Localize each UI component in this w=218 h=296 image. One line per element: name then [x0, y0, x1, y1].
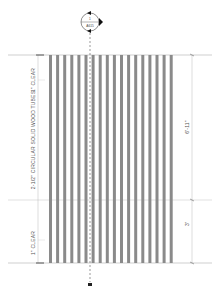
wood-tube	[49, 55, 52, 263]
wood-tube	[106, 55, 109, 263]
section-end-marker	[88, 283, 92, 286]
section-arrow-right-icon	[99, 18, 103, 26]
wood-tube	[85, 55, 88, 263]
section-number: 1	[89, 17, 91, 21]
wood-tube	[134, 55, 137, 263]
wood-tube	[141, 55, 144, 263]
wood-tube	[163, 55, 166, 263]
wood-tube	[70, 55, 73, 263]
section-sheet: A615	[86, 24, 94, 28]
wood-tubes-group	[49, 55, 173, 263]
bottom-clear-label: 1" CLEAR	[30, 231, 36, 255]
section-marker[interactable]: 1 A615	[81, 11, 103, 33]
wood-tube	[92, 55, 95, 263]
wood-tube	[56, 55, 59, 263]
wood-tube	[77, 55, 80, 263]
wood-tube	[170, 55, 173, 263]
wood-tube	[113, 55, 116, 263]
top-clear-label: 1" CLEAR	[30, 68, 36, 92]
tubes-note-label: 2-1/2" CIRCULAR SOLID WOOD TUBES	[30, 90, 36, 189]
wood-tube	[127, 55, 130, 263]
dimension-lower-label: 3'	[184, 222, 190, 226]
elevation-drawing: 1 A615 1" CLEAR 2-1/2" CIRCULAR SOLID WO…	[0, 0, 218, 296]
wood-tube	[99, 55, 102, 263]
wood-tube	[148, 55, 151, 263]
wood-tube	[156, 55, 159, 263]
wood-tube	[63, 55, 66, 263]
wood-tube	[120, 55, 123, 263]
dimension-upper-label: 6'-11"	[184, 120, 190, 134]
